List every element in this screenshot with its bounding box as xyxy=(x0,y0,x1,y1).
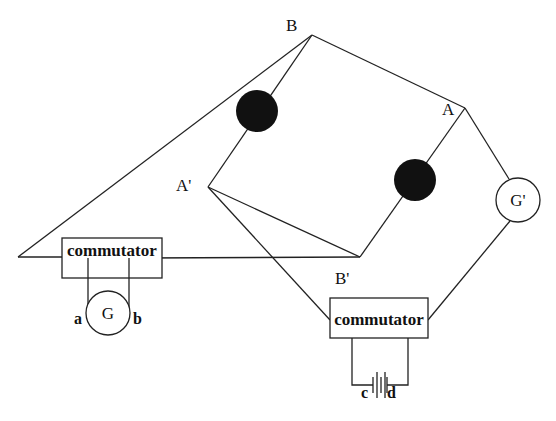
wire-battery-lead-d xyxy=(387,338,408,385)
right-commutator-label: commutator xyxy=(334,310,424,329)
battery-icon xyxy=(373,372,387,398)
wire-a-to-g-prime xyxy=(465,108,509,179)
node-a-label: A xyxy=(442,100,455,119)
resistor-b-a-prime xyxy=(236,90,278,132)
circuit-diagram: commutator G a b commutator c d G' B A A… xyxy=(0,0,556,421)
terminal-a-label: a xyxy=(74,310,82,327)
wire-a-prime-to-right-commutator xyxy=(208,187,330,320)
wire-b-to-left-tip xyxy=(18,35,312,257)
wire-b-to-a xyxy=(312,35,465,108)
wire-g-prime-to-right-commutator xyxy=(428,221,510,320)
terminal-b-label: b xyxy=(133,310,142,327)
galvanometer-g-prime-label: G' xyxy=(510,191,525,210)
terminal-d-label: d xyxy=(387,384,396,401)
wire-a-prime-to-b-prime xyxy=(208,187,360,257)
node-a-prime-label: A' xyxy=(176,176,191,195)
wire-battery-lead-c xyxy=(352,338,373,385)
left-commutator-label: commutator xyxy=(67,241,157,260)
terminal-c-label: c xyxy=(361,384,368,401)
galvanometer-g-label: G xyxy=(102,304,114,323)
wire-commutator-to-b-prime xyxy=(142,257,360,258)
node-b-prime-label: B' xyxy=(335,269,349,288)
resistor-a-b-prime xyxy=(394,159,436,201)
node-b-label: B xyxy=(286,16,297,35)
